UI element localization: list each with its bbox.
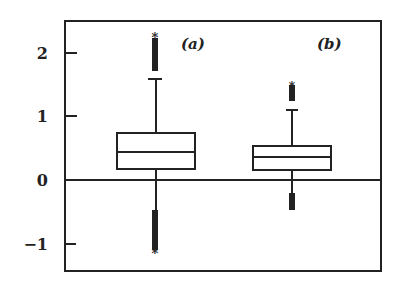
outlier-asterisk-icon: * <box>152 30 159 45</box>
box-plot: 2 1 0 −1 * * (a) * (b) <box>0 0 399 291</box>
y-tick-label-minus-1: −1 <box>23 235 48 254</box>
panel-label-a: (a) <box>181 35 205 53</box>
box-a: * * (a) <box>117 30 205 261</box>
plot-frame <box>65 21 381 271</box>
y-axis: 2 1 0 −1 <box>23 44 77 254</box>
outlier-asterisk-icon: * <box>152 246 159 261</box>
panel-label-b: (b) <box>317 35 342 53</box>
outlier-asterisk-icon: * <box>289 80 296 94</box>
y-tick-label-1: 1 <box>37 107 48 126</box>
outliers-low-b <box>289 193 295 210</box>
y-tick-label-2: 2 <box>37 44 48 63</box>
box-b: * (b) <box>253 35 342 210</box>
y-tick-label-0: 0 <box>37 171 48 190</box>
outliers-low-a <box>152 210 158 250</box>
